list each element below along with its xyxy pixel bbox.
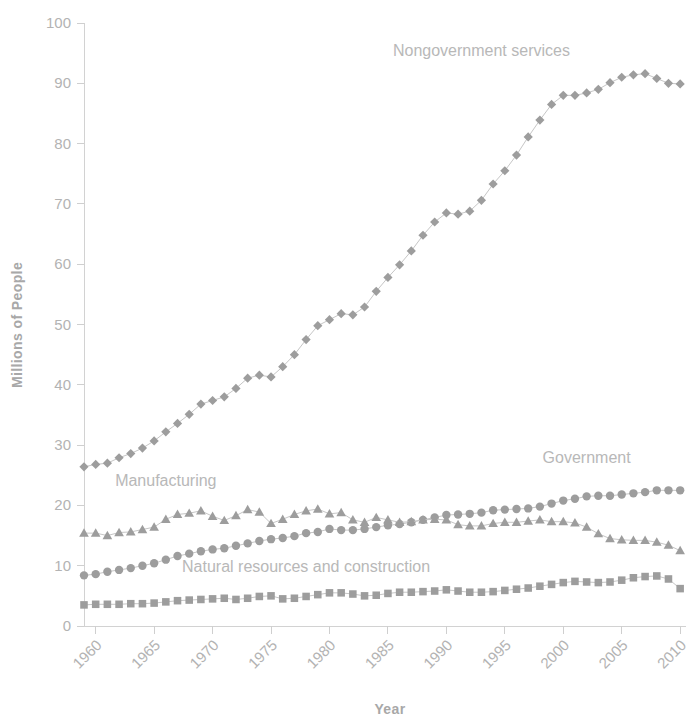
data-point [442, 208, 451, 217]
data-point [524, 504, 532, 512]
data-point [326, 589, 334, 597]
data-point [243, 539, 251, 547]
x-axis-title: Year [374, 701, 405, 717]
data-point [360, 525, 368, 533]
data-point [653, 572, 661, 580]
data-point [676, 79, 685, 88]
data-point [501, 587, 509, 595]
data-point [641, 488, 649, 496]
data-point [279, 534, 287, 542]
y-axis-title: Millions of People [9, 262, 25, 388]
data-point [337, 309, 346, 318]
data-point [150, 559, 158, 567]
data-point [197, 547, 205, 555]
x-tick-label: 1970 [186, 636, 222, 672]
x-tick-label: 1980 [303, 636, 339, 672]
data-point [115, 566, 123, 574]
y-tick-label: 0 [63, 617, 71, 634]
data-point [244, 594, 252, 602]
data-point [256, 593, 264, 601]
data-point [582, 88, 591, 97]
data-point [640, 536, 650, 544]
data-point [126, 449, 135, 458]
data-point [371, 513, 381, 521]
data-point [513, 585, 521, 593]
data-point [337, 526, 345, 534]
y-tick-label: 30 [54, 436, 71, 453]
data-point [91, 570, 99, 578]
data-point [267, 592, 275, 600]
data-point [115, 601, 123, 609]
data-point [548, 581, 556, 589]
data-point [127, 600, 135, 608]
data-point [279, 595, 287, 603]
data-point [150, 599, 158, 607]
data-point [594, 85, 603, 94]
data-point [79, 528, 89, 536]
x-tick-label: 1990 [420, 636, 456, 672]
x-tick-label: 1995 [478, 636, 514, 672]
data-point [594, 492, 602, 500]
y-tick-label: 70 [54, 195, 71, 212]
chart-container: 0102030405060708090100 19601965197019751… [0, 0, 691, 721]
data-point [79, 462, 88, 471]
data-point [255, 371, 264, 380]
data-point [594, 529, 604, 537]
data-point [278, 514, 288, 522]
x-tick-label: 1965 [128, 636, 164, 672]
y-tick-label: 90 [54, 74, 71, 91]
data-point [349, 590, 357, 598]
x-tick-label: 2005 [595, 636, 631, 672]
data-point [618, 490, 626, 498]
data-point [559, 91, 568, 100]
data-point [617, 73, 626, 82]
data-point [489, 588, 497, 596]
data-point [127, 564, 135, 572]
data-point [606, 492, 614, 500]
series-label: Government [543, 449, 632, 466]
y-tick-label: 40 [54, 376, 71, 393]
y-tick-label: 100 [46, 14, 71, 31]
data-series-group [79, 69, 685, 609]
y-tick-label: 50 [54, 316, 71, 333]
data-point [419, 588, 427, 596]
data-point [80, 601, 88, 609]
x-tick-label: 1960 [69, 636, 105, 672]
data-point [302, 593, 310, 601]
line-chart: 0102030405060708090100 19601965197019751… [0, 0, 691, 721]
data-point [547, 499, 555, 507]
data-point [524, 584, 532, 592]
data-point [337, 589, 345, 597]
data-point [208, 511, 218, 519]
series-triangle [79, 504, 685, 554]
data-point [396, 588, 404, 596]
data-point [443, 586, 451, 594]
y-tick-label: 80 [54, 135, 71, 152]
data-point [676, 486, 684, 494]
data-point [500, 517, 510, 525]
y-tick-label: 60 [54, 255, 71, 272]
data-point [583, 578, 591, 586]
data-point [348, 310, 357, 319]
data-point [524, 132, 533, 141]
data-point [559, 496, 567, 504]
data-point [325, 315, 334, 324]
data-point [255, 537, 263, 545]
data-point [162, 555, 170, 563]
data-point [243, 505, 253, 513]
data-point [325, 525, 333, 533]
data-point [220, 594, 228, 602]
data-point [618, 576, 626, 584]
data-point [535, 515, 545, 523]
data-point [232, 542, 240, 550]
data-point [536, 582, 544, 590]
data-point [605, 534, 615, 542]
data-point [453, 210, 462, 219]
series-diamond [79, 69, 684, 471]
data-point [197, 596, 205, 604]
data-point [104, 601, 112, 609]
data-point [384, 590, 392, 598]
data-point [161, 427, 170, 436]
data-point [664, 486, 672, 494]
data-point [535, 115, 544, 124]
